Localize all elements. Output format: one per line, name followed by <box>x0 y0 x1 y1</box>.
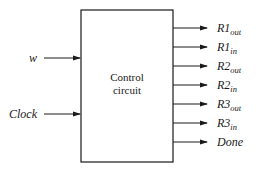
output-label-r3-in: R3in <box>216 116 237 132</box>
output-r3-out: R3out <box>173 97 242 113</box>
output-done: Done <box>173 135 244 149</box>
block-label-line2: circuit <box>113 84 141 96</box>
output-r1-out: R1out <box>173 21 242 37</box>
input-label-clock: Clock <box>9 107 38 121</box>
output-label-r1-in: R1in <box>216 40 237 56</box>
block-label-line1: Control <box>110 71 144 83</box>
output-r1-in: R1in <box>173 40 237 56</box>
output-label-r1-out: R1out <box>216 21 242 37</box>
output-r2-out: R2out <box>173 59 242 75</box>
control-circuit-diagram: Control circuit w Clock R1out R1in <box>0 0 260 172</box>
output-r3-in: R3in <box>173 116 237 132</box>
output-label-r2-out: R2out <box>216 59 242 75</box>
output-r2-in: R2in <box>173 78 237 94</box>
output-label-r2-in: R2in <box>216 78 237 94</box>
input-w: w <box>29 51 80 65</box>
output-label-r3-out: R3out <box>216 97 242 113</box>
output-label-done: Done <box>216 135 244 149</box>
input-clock: Clock <box>9 107 80 121</box>
input-label-w: w <box>29 51 37 65</box>
